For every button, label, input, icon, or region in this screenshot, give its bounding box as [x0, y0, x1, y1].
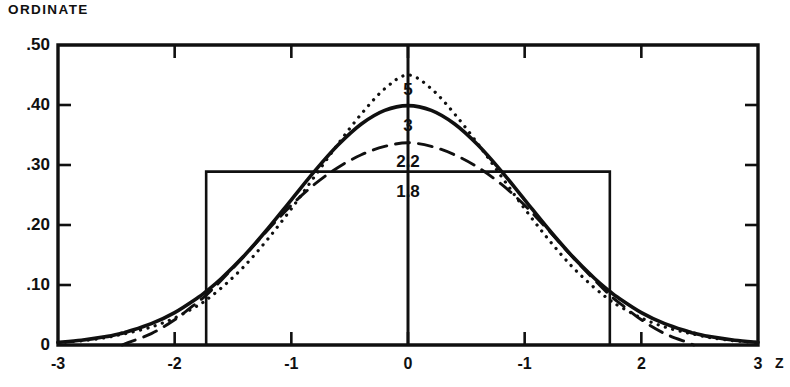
distribution-curves-figure: ORDINATE 0.10.20.30.40.50 -3-2-10-123 53…: [0, 0, 790, 387]
x-axis-name-label: Z: [775, 356, 784, 370]
curve-label-3: 3: [378, 117, 438, 134]
curve-label-2.2: 2.2: [378, 153, 438, 170]
curve-label-1.8: 1.8: [378, 183, 438, 200]
y-tick-label-5: .50: [0, 36, 50, 53]
x-tick-label-0: -3: [28, 356, 88, 372]
y-tick-label-1: .10: [0, 276, 50, 293]
x-tick-label-1: -2: [145, 356, 205, 372]
y-tick-label-4: .40: [0, 96, 50, 113]
x-tick-label-2: -1: [261, 356, 321, 372]
x-tick-label-3: 0: [378, 356, 438, 372]
curve-label-5: 5: [378, 81, 438, 98]
y-tick-label-2: .20: [0, 216, 50, 233]
x-tick-label-5: 2: [611, 356, 671, 372]
x-tick-label-4: -1: [495, 356, 555, 372]
y-tick-label-3: .30: [0, 156, 50, 173]
y-tick-label-0: 0: [0, 336, 50, 353]
